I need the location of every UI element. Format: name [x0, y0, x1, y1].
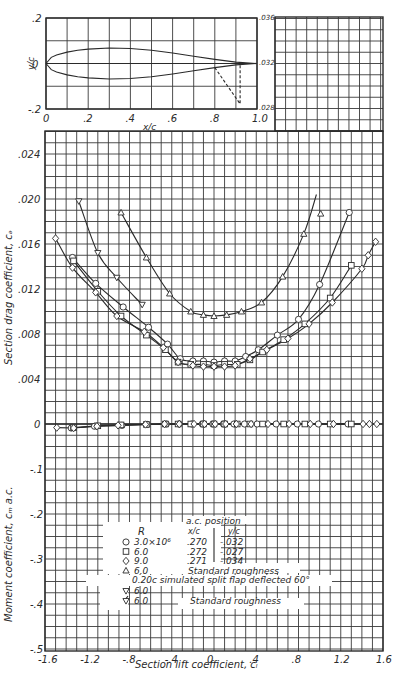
airfoil-y-label: y/c	[26, 57, 36, 71]
cl-tick: 1.6	[376, 654, 392, 665]
diamond-marker-icon	[374, 420, 380, 427]
legend-yc-header: y/c	[227, 527, 240, 536]
circle-marker-icon	[294, 421, 300, 427]
circle-marker-icon	[346, 209, 352, 215]
cd-tick: .008	[18, 329, 40, 340]
triangle-up-marker-icon	[280, 274, 286, 280]
square-marker-icon	[71, 258, 77, 264]
cm-tick: -.3	[30, 554, 43, 565]
cd-tick: .024	[18, 149, 40, 160]
cl-tick: -.8	[123, 654, 136, 665]
legend-xc-value: .270	[187, 537, 207, 547]
legend-r-value: 9.0	[134, 556, 149, 566]
airfoil-x-tick: .8	[210, 113, 220, 124]
airfoil-x-tick: .2	[83, 113, 93, 124]
legend-r-value: 3.0×10⁶	[134, 537, 171, 547]
circle-marker-icon	[254, 421, 260, 427]
circle-marker-icon	[93, 280, 99, 286]
cm-axis-label: Moment coefficient, cₘ a.c.	[3, 486, 14, 622]
legend: a.c. positionRx/cy/c3.0×10⁶.270-.0326.0.…	[86, 516, 332, 610]
legend-r-title: R	[138, 526, 145, 537]
cm-tick: -.5	[30, 644, 43, 655]
circle-marker-icon	[273, 421, 279, 427]
airfoil-x-tick: .6	[168, 113, 178, 124]
airfoil-x-tick: .4	[125, 113, 135, 124]
diamond-marker-icon	[286, 420, 292, 427]
circle-marker-icon	[120, 304, 126, 310]
drag-curve	[56, 238, 376, 366]
legend-r-value: 6.0	[134, 547, 149, 557]
cm-tick: -.1	[30, 464, 43, 475]
ext-frame	[275, 17, 383, 131]
legend-r-value: 6.0	[134, 596, 149, 606]
diamond-marker-icon	[366, 420, 372, 427]
drag-curve	[72, 213, 349, 363]
cd-axis-label: Section drag coefficient, cₔ	[3, 230, 14, 365]
legend-yc-value: -.027	[220, 547, 244, 557]
diamond-marker-icon	[360, 420, 366, 427]
circle-marker-icon	[317, 281, 323, 287]
cd-extra-tick: .028	[259, 104, 275, 112]
chart-canvas: 0.2.4.6.81.0.20-.2x/cy/c.036.032.028-1.6…	[0, 0, 399, 679]
legend-note: Standard roughness	[188, 566, 279, 576]
diamond-marker-icon	[52, 235, 58, 242]
data-point-markers	[52, 199, 379, 432]
legend-xc-value: .272	[187, 547, 207, 557]
diamond-marker-icon	[265, 420, 271, 427]
cm-tick: -.2	[30, 509, 43, 520]
cd-extra-tick: .036	[259, 14, 275, 22]
cd-tick: .012	[18, 284, 40, 295]
square-marker-icon	[349, 263, 355, 269]
cl-axis-label: Section lift coefficient, cₗ	[135, 659, 258, 670]
legend-yc-value: -.032	[220, 537, 244, 547]
cl-tick: .8	[292, 654, 302, 665]
airfoil-x-label: x/c	[142, 122, 156, 132]
diamond-marker-icon	[307, 420, 313, 427]
cm-tick: -.4	[30, 599, 43, 610]
circle-marker-icon	[315, 421, 321, 427]
triangle-up-marker-icon	[301, 231, 307, 237]
legend-xc-value: .271	[187, 556, 207, 566]
cl-tick: -1.2	[80, 654, 100, 665]
cd-tick: .004	[18, 374, 40, 385]
airfoil-y-tick: -.2	[28, 104, 41, 115]
diamond-marker-icon	[365, 252, 371, 259]
airfoil-y-tick: .2	[32, 13, 42, 24]
cl-tick: 1.2	[334, 654, 350, 665]
cd-extra-tick: .032	[259, 59, 275, 67]
square-marker-icon	[123, 549, 129, 555]
legend-flap-note: 0.20c simulated split flap deflected 60°	[132, 575, 310, 585]
legend-r-value: 6.0	[134, 586, 149, 596]
legend-yc-value: -.034	[220, 556, 244, 566]
cd-tick: 0	[34, 419, 40, 430]
cl-tick: -1.6	[38, 654, 58, 665]
circle-marker-icon	[274, 332, 280, 338]
legend-note: Standard roughness	[190, 596, 281, 606]
legend-xc-header: x/c	[187, 527, 200, 536]
legend-r-value: 6.0	[134, 566, 149, 576]
airfoil-x-tick: 0	[43, 113, 49, 124]
circle-marker-icon	[123, 539, 129, 545]
circle-marker-icon	[241, 421, 247, 427]
legend-ac-title: a.c. position	[186, 516, 241, 526]
diamond-marker-icon	[54, 424, 60, 431]
circle-marker-icon	[295, 316, 301, 322]
circle-marker-icon	[145, 324, 151, 330]
cd-tick: .016	[18, 239, 40, 250]
triangle-up-marker-icon	[318, 211, 324, 217]
airfoil-x-tick: 1.0	[252, 113, 268, 124]
naca-airfoil-data-chart: 0.2.4.6.81.0.20-.2x/cy/c.036.032.028-1.6…	[0, 0, 399, 679]
cd-tick: .020	[18, 194, 40, 205]
square-marker-icon	[349, 421, 355, 427]
